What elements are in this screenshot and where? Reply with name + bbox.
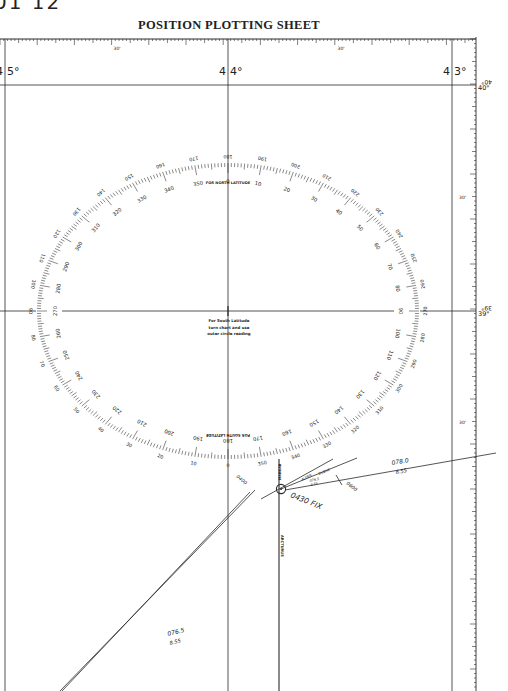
rose-tick xyxy=(412,338,416,339)
rose-tick xyxy=(72,392,77,395)
rose-tick xyxy=(267,452,268,456)
rose-tick xyxy=(172,449,173,453)
rose-outer-degree-label: 90 xyxy=(28,308,33,314)
rose-tick xyxy=(346,423,349,426)
rose-tick xyxy=(319,182,321,185)
rose-tick xyxy=(51,256,55,258)
rose-tick xyxy=(45,353,49,354)
rose-tick xyxy=(405,263,409,264)
rose-tick xyxy=(403,363,407,364)
rose-tick xyxy=(195,165,197,175)
small-distance: 8.55 xyxy=(310,481,318,487)
rose-tick xyxy=(399,251,403,253)
rose-outer-degree-label: 200 xyxy=(290,162,300,170)
rose-tick xyxy=(396,371,401,374)
rose-tick xyxy=(280,449,281,453)
rose-inner-degree-label: 130 xyxy=(355,389,366,400)
rose-outer-degree-label: 120 xyxy=(52,228,61,238)
rose-tick xyxy=(289,447,290,451)
rose-tick xyxy=(407,268,411,269)
rose-tick xyxy=(412,298,418,299)
rose-tick xyxy=(42,343,46,344)
rose-tick xyxy=(406,285,416,287)
longitude-label-degree-units: 3° xyxy=(454,65,467,78)
rose-outer-degree-label: 220 xyxy=(350,188,360,198)
rose-tick xyxy=(408,351,412,352)
rose-tick xyxy=(88,210,91,213)
rose-outer-degree-label: 10 xyxy=(190,460,197,466)
rose-tick xyxy=(80,218,83,221)
rose-tick xyxy=(45,268,49,269)
north-latitude-note: FOR NORTH LATITUDE xyxy=(206,181,251,185)
rose-inner-degree-label: 300 xyxy=(73,240,83,252)
rose-tick xyxy=(289,171,290,175)
rose-inner-degree-label: 30 xyxy=(310,195,319,204)
rose-outer-degree-label: 350 xyxy=(257,460,267,467)
rose-inner-degree-label: 270 xyxy=(52,306,58,316)
distance-right: 8.55 xyxy=(395,467,408,475)
rose-tick xyxy=(50,363,54,364)
rose-tick xyxy=(353,201,356,204)
rose-tick xyxy=(179,448,181,454)
rose-tick xyxy=(86,212,89,215)
rose-tick xyxy=(93,206,97,210)
rose-tick xyxy=(211,164,212,170)
rose-tick xyxy=(383,228,386,230)
rose-tick xyxy=(395,376,399,378)
rose-tick xyxy=(395,244,399,246)
rose-tick xyxy=(95,415,98,418)
rose-tick xyxy=(398,358,407,361)
rose-outer-degree-label: 310 xyxy=(375,405,385,415)
rose-tick xyxy=(330,187,332,190)
rose-inner-degree-label: 80 xyxy=(394,285,401,293)
rose-tick xyxy=(195,447,197,457)
rose-tick xyxy=(304,443,306,447)
rose-tick xyxy=(316,438,318,442)
rose-tick xyxy=(211,452,212,458)
rose-tick xyxy=(341,426,343,429)
rose-tick xyxy=(163,441,166,450)
rose-inner-degree-label: 310 xyxy=(90,222,101,233)
rose-tick xyxy=(359,206,363,210)
rose-inner-degree-label: 320 xyxy=(111,206,122,217)
top-scale-minute-label: 30' xyxy=(114,46,121,51)
rose-tick xyxy=(188,452,189,456)
course-left: 076.5 xyxy=(167,626,186,637)
rose-inner-degree-label: 40 xyxy=(335,207,344,216)
rose-tick xyxy=(39,288,43,289)
rose-tick xyxy=(373,402,376,405)
rose-tick xyxy=(169,448,170,452)
rose-tick xyxy=(49,260,58,263)
rose-tick xyxy=(343,194,345,197)
rose-tick xyxy=(153,175,155,179)
rose-outer-degree-label: 190 xyxy=(257,155,267,162)
rose-tick xyxy=(396,248,401,251)
rose-tick xyxy=(198,165,199,169)
rose-tick xyxy=(388,385,391,387)
rose-tick xyxy=(257,453,258,457)
rose-tick xyxy=(70,392,73,394)
rose-tick xyxy=(367,216,375,222)
rose-inner-degree-label: 340 xyxy=(163,185,174,194)
rose-tick xyxy=(270,451,271,455)
rose-tick xyxy=(333,188,335,191)
rose-tick xyxy=(264,452,265,456)
rose-inner-degree-label: 260 xyxy=(54,328,62,339)
rose-outer-degree-label: 30 xyxy=(125,441,133,448)
rose-tick xyxy=(91,208,94,211)
rose-tick xyxy=(369,405,372,408)
rose-outer-degree-label: 300 xyxy=(395,383,404,393)
rose-tick xyxy=(39,334,43,335)
rose-tick xyxy=(43,275,47,276)
rose-tick xyxy=(49,358,58,361)
rose-tick xyxy=(369,214,372,217)
rose-tick xyxy=(68,230,71,232)
rose-tick xyxy=(410,343,414,344)
rose-tick xyxy=(388,235,391,237)
rose-outer-degree-label: 180 xyxy=(223,154,232,159)
rose-tick xyxy=(58,244,62,246)
rose-tick xyxy=(55,371,60,374)
rose-tick xyxy=(406,265,410,266)
rose-tick xyxy=(160,173,161,177)
chart-canvas: 30'30'30'30'45°44°43°40°40°39°39°0180101… xyxy=(0,0,508,691)
